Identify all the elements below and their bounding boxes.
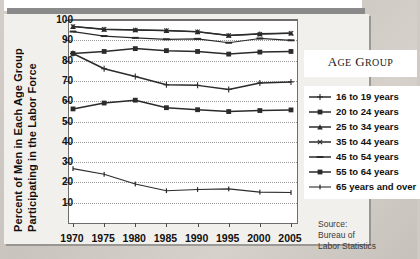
x-tick-label: 1995 <box>216 232 239 244</box>
series-line <box>73 169 291 193</box>
data-point <box>259 190 260 195</box>
data-point <box>226 86 232 92</box>
series-line <box>73 54 291 90</box>
legend-item-label: 55 to 64 years <box>336 166 399 177</box>
y-tick-label: 40 <box>47 135 73 146</box>
data-point <box>195 107 200 112</box>
data-point <box>101 66 107 72</box>
data-point <box>163 38 170 40</box>
data-point <box>288 39 295 41</box>
data-point <box>317 94 323 100</box>
data-point <box>166 188 167 193</box>
x-tick-label: 1980 <box>123 232 146 244</box>
data-point <box>133 46 138 51</box>
legend-item-2[interactable]: 20 to 24 years <box>308 104 420 119</box>
data-point <box>290 190 291 195</box>
data-point <box>135 182 136 187</box>
y-tick-label: 30 <box>47 156 73 167</box>
legend-item-6[interactable]: 55 to 64 years <box>308 164 420 179</box>
x-tick-label: 1985 <box>154 232 177 244</box>
data-point <box>102 101 107 106</box>
data-point <box>257 80 263 86</box>
x-tick-label: 1990 <box>185 232 208 244</box>
y-tick-label: 20 <box>47 176 73 187</box>
data-point <box>195 82 201 88</box>
x-tick <box>291 223 292 227</box>
legend-item-label: 20 to 24 years <box>336 106 399 117</box>
data-point <box>289 108 294 113</box>
y-axis-title-line2: Participating in the Labor Force <box>26 36 38 232</box>
legend-marker-icon <box>308 166 332 178</box>
legend-marker-icon <box>308 151 332 163</box>
data-point <box>319 184 320 189</box>
x-tick <box>73 223 74 227</box>
x-tick <box>260 223 261 227</box>
x-tick-label: 2000 <box>247 232 270 244</box>
y-axis-title-line1: Percent of Men in Each Age Group <box>12 36 24 232</box>
data-point <box>101 35 108 37</box>
legend-item-1[interactable]: 16 to 19 years <box>308 89 420 104</box>
y-tick-label: 80 <box>47 54 73 65</box>
series-1 <box>70 50 294 92</box>
series-4 <box>69 22 295 39</box>
x-tick <box>135 223 136 227</box>
series-7 <box>72 166 291 195</box>
data-point <box>257 50 262 55</box>
series-2 <box>71 46 294 56</box>
source-line-2: Bureau of <box>318 230 418 241</box>
data-point <box>132 73 138 79</box>
y-tick-label: 60 <box>47 95 73 106</box>
data-point <box>256 37 263 39</box>
legend-marker-icon <box>308 121 332 133</box>
source-line-3: Labor Statistics <box>318 241 418 252</box>
data-point <box>70 31 77 33</box>
legend-title-word-age: AGE <box>328 54 352 69</box>
legend-marker-icon <box>308 136 332 148</box>
data-point <box>194 38 201 40</box>
y-tick-label: 70 <box>47 74 73 85</box>
data-point <box>228 186 229 191</box>
legend-item-4[interactable]: 35 to 44 years <box>308 134 420 149</box>
source-line-1: Source: <box>318 219 418 230</box>
y-tick-label: 90 <box>47 34 73 45</box>
data-point <box>226 52 231 57</box>
y-tick-label: 50 <box>47 115 73 126</box>
x-tick <box>104 223 105 227</box>
x-tick-label: 1975 <box>91 232 114 244</box>
data-point <box>133 98 138 103</box>
data-point <box>318 169 323 174</box>
data-point <box>197 187 198 192</box>
legend-item-label: 45 to 54 years <box>336 151 399 162</box>
x-tick <box>166 223 167 227</box>
legend-item-3[interactable]: 25 to 34 years <box>308 119 420 134</box>
y-tick-label: 100 <box>47 14 73 25</box>
legend-title: AGE GROUP <box>304 54 417 70</box>
legend-item-label: 25 to 34 years <box>336 121 399 132</box>
y-tick-label: 10 <box>47 196 73 207</box>
legend-items: 16 to 19 years20 to 24 years25 to 34 yea… <box>304 86 420 199</box>
legend-marker-icon <box>308 181 332 193</box>
series-lines <box>69 20 297 223</box>
data-point <box>164 48 169 53</box>
data-point <box>163 82 169 88</box>
data-point <box>132 37 139 39</box>
data-point <box>318 109 323 114</box>
data-point <box>289 49 294 54</box>
chart-card: Percent of Men in Each Age Group Partici… <box>4 14 369 244</box>
data-point <box>226 109 231 114</box>
series-6 <box>71 98 294 114</box>
x-tick-label: 2005 <box>278 232 301 244</box>
legend-item-5[interactable]: 45 to 54 years <box>308 149 420 164</box>
data-point <box>164 105 169 110</box>
source-note: Source: Bureau of Labor Statistics <box>318 219 418 253</box>
legend-item-label: 35 to 44 years <box>336 136 399 147</box>
plot-area <box>68 19 298 224</box>
legend-item-label: 65 years and over <box>336 181 416 192</box>
data-point <box>195 49 200 54</box>
legend-item-7[interactable]: 65 years and over <box>308 179 420 194</box>
data-point <box>104 172 105 177</box>
data-point <box>288 79 294 85</box>
x-tick <box>229 223 230 227</box>
data-point <box>71 107 76 112</box>
